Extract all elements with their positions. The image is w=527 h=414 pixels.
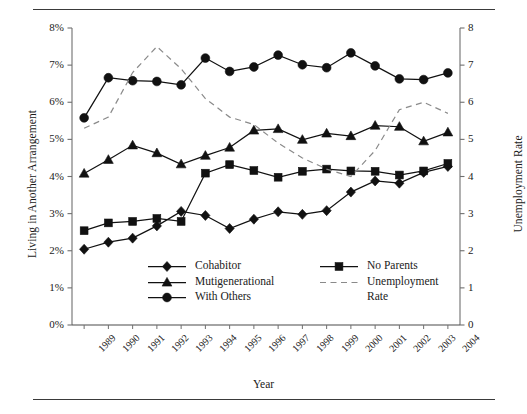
y-tick-label-right: 0 (468, 319, 490, 330)
y-axis-right-title: Unemployment Rate (512, 59, 524, 309)
data-point (370, 121, 380, 130)
data-point (395, 171, 403, 179)
data-point (274, 173, 282, 181)
legend-column-right: No ParentsUnemploymentRate (318, 258, 439, 305)
y-tick-label-right: 6 (468, 96, 490, 107)
data-point (371, 61, 380, 70)
data-point (103, 155, 113, 164)
square-marker-icon (318, 258, 360, 274)
data-point (104, 219, 112, 227)
data-point (201, 210, 210, 220)
data-point (322, 63, 331, 72)
legend-label: UnemploymentRate (360, 274, 439, 305)
y-tick-label-right: 4 (468, 171, 490, 182)
data-point (298, 60, 307, 69)
y-tick-label-right: 1 (468, 282, 490, 293)
data-point (152, 77, 161, 86)
y-tick-label-right: 5 (468, 133, 490, 144)
legend-label: Mutigenerational (188, 274, 274, 290)
legend-label: Cohabitor (188, 258, 241, 274)
x-axis-title: Year (0, 378, 527, 390)
legend-marker-sample (146, 258, 188, 274)
data-point (104, 73, 113, 82)
legend-item: Mutigenerational (146, 274, 274, 290)
legend-label-line2: Rate (367, 289, 439, 305)
data-point (347, 167, 355, 175)
data-point (249, 214, 258, 224)
data-point (395, 178, 404, 188)
legend-item: Cohabitor (146, 258, 274, 274)
series-no-parents (80, 160, 452, 235)
data-point (274, 207, 283, 217)
data-point (225, 67, 234, 76)
data-point (177, 218, 185, 226)
data-point (177, 80, 186, 89)
data-point (322, 206, 331, 216)
data-point (395, 74, 404, 83)
legend-marker-sample (318, 258, 360, 274)
y-tick-label-left: 7% (30, 59, 64, 70)
y-tick-label-left: 0% (30, 319, 64, 330)
legend-marker-sample (318, 274, 360, 290)
y-tick-label-left: 4% (30, 171, 64, 182)
y-tick-label-right: 2 (468, 245, 490, 256)
data-point (346, 187, 355, 197)
y-tick-label-right: 8 (468, 22, 490, 33)
data-point (274, 51, 283, 60)
data-point (129, 218, 137, 226)
y-tick-label-right: 3 (468, 208, 490, 219)
legend-item: With Others (146, 289, 274, 305)
y-tick-label-left: 3% (30, 208, 64, 219)
data-point (250, 167, 258, 175)
y-tick-label-left: 2% (30, 245, 64, 256)
data-point (128, 233, 137, 243)
plot-area (0, 0, 527, 414)
legend-column-left: CohabitorMutigenerationalWith Others (146, 258, 274, 305)
y-tick-label-left: 1% (30, 282, 64, 293)
data-point (420, 167, 428, 175)
legend-item: UnemploymentRate (318, 274, 439, 305)
data-point (419, 75, 428, 84)
data-point (346, 48, 355, 57)
data-point (443, 69, 452, 78)
data-point (79, 168, 89, 177)
y-tick-label-left: 5% (30, 133, 64, 144)
top-rule (33, 9, 495, 10)
diamond-marker-icon (146, 258, 188, 274)
data-point (273, 124, 283, 133)
series-with-others (80, 48, 453, 122)
legend-marker-sample (146, 289, 188, 305)
triangle-marker-icon (146, 274, 188, 290)
series-unemployment-rate (84, 47, 448, 177)
data-point (298, 209, 307, 219)
y-tick-label-left: 8% (30, 22, 64, 33)
y-tick-label-left: 6% (30, 96, 64, 107)
data-point (298, 167, 306, 175)
data-point (104, 237, 113, 247)
figure-container: Living in Another Arrangement Unemployme… (0, 0, 527, 414)
legend-item: No Parents (318, 258, 439, 274)
data-point (128, 76, 137, 85)
data-point (371, 176, 380, 186)
data-point (443, 127, 453, 136)
data-point (80, 227, 88, 235)
data-point (80, 113, 89, 122)
series-mutigenerational (79, 121, 453, 178)
data-point (322, 128, 332, 137)
data-point (225, 223, 234, 233)
legend-label: No Parents (360, 258, 418, 274)
data-point (201, 54, 210, 63)
legend-label: With Others (188, 289, 251, 305)
y-tick-label-right: 7 (468, 59, 490, 70)
data-point (444, 160, 452, 168)
legend-marker-sample (146, 274, 188, 290)
bottom-rule (33, 399, 495, 400)
circle-marker-icon (146, 289, 188, 305)
data-point (201, 169, 209, 177)
data-point (249, 63, 258, 72)
data-point (371, 167, 379, 175)
dashed-line-icon (318, 274, 360, 290)
data-point (128, 140, 138, 149)
data-point (226, 161, 234, 169)
data-point (225, 142, 235, 151)
